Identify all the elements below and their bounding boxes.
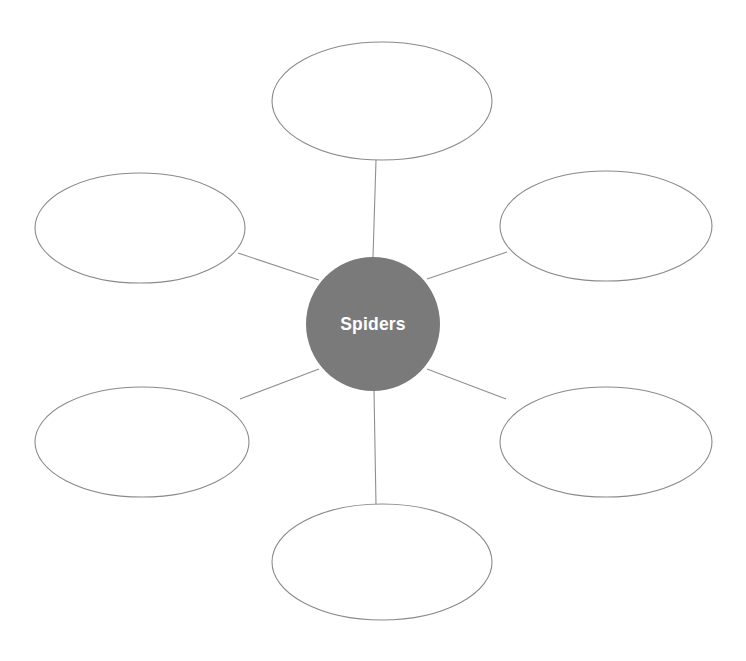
spider-map-diagram: Spiders [0, 0, 746, 661]
top-branch-oval[interactable] [272, 42, 492, 160]
bottom-branch-oval[interactable] [272, 504, 492, 620]
bottom-left-branch-oval[interactable] [35, 387, 249, 497]
bottom-right-branch-oval-shape[interactable] [500, 387, 712, 497]
bottom-branch-oval-shape[interactable] [272, 504, 492, 620]
center-node[interactable]: Spiders [306, 257, 440, 391]
bottom-right-branch-oval[interactable] [500, 387, 712, 497]
top-left-branch-oval-shape[interactable] [35, 173, 245, 283]
spider-map-canvas: Spiders [0, 0, 746, 661]
top-branch-oval-shape[interactable] [272, 42, 492, 160]
top-left-branch-oval[interactable] [35, 173, 245, 283]
center-label: Spiders [340, 314, 406, 334]
top-right-branch-oval-shape[interactable] [500, 171, 712, 281]
top-right-branch-oval[interactable] [500, 171, 712, 281]
bottom-left-branch-oval-shape[interactable] [35, 387, 249, 497]
